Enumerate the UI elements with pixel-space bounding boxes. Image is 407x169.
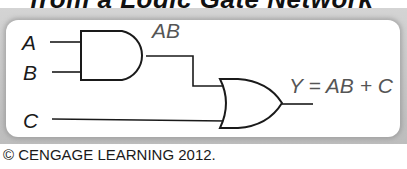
intermediate-label-ab: AB xyxy=(150,19,180,42)
wire-c xyxy=(52,119,226,121)
copyright-notice: © CENGAGE LEARNING 2012. xyxy=(3,146,216,163)
input-label-b: B xyxy=(23,61,37,84)
wire-ab xyxy=(146,56,222,86)
output-expression: Y = AB + C xyxy=(289,74,394,97)
input-label-a: A xyxy=(20,31,36,54)
logic-gate-network: A B C AB Y = AB + C xyxy=(0,0,407,169)
input-label-c: C xyxy=(23,109,39,132)
and-gate xyxy=(81,31,142,80)
or-gate xyxy=(220,79,282,128)
